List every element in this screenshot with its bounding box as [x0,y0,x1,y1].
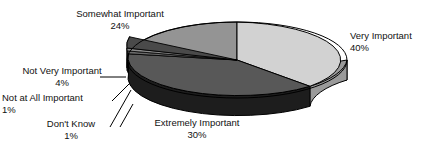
slice-label-not-at-all-important: Not at All Important 1% [2,92,122,115]
slice-label-not-very-important-name: Not Very Important [22,65,101,76]
slice-label-not-at-all-important-value: 1% [2,104,122,116]
slice-label-somewhat-important-value: 24% [52,20,188,32]
pie-chart-figure: Somewhat Important 24% Very Important 40… [0,0,442,152]
slice-label-dont-know-value: 1% [22,130,120,142]
slice-label-dont-know-name: Don't Know [47,118,95,129]
slice-label-very-important-name: Very Important [350,30,412,41]
slice-label-extremely-important: Extremely Important 30% [128,117,266,140]
slice-label-very-important: Very Important 40% [350,30,442,53]
slice-label-not-very-important: Not Very Important 4% [6,65,118,88]
slice-label-extremely-important-value: 30% [128,129,266,141]
slice-label-not-very-important-value: 4% [6,77,118,89]
slice-label-very-important-value: 40% [350,42,442,54]
slice-label-somewhat-important: Somewhat Important 24% [52,8,188,31]
slice-label-somewhat-important-name: Somewhat Important [76,8,164,19]
slice-label-dont-know: Don't Know 1% [22,118,120,141]
slice-label-not-at-all-important-name: Not at All Important [2,92,83,103]
slice-label-extremely-important-name: Extremely Important [155,117,240,128]
